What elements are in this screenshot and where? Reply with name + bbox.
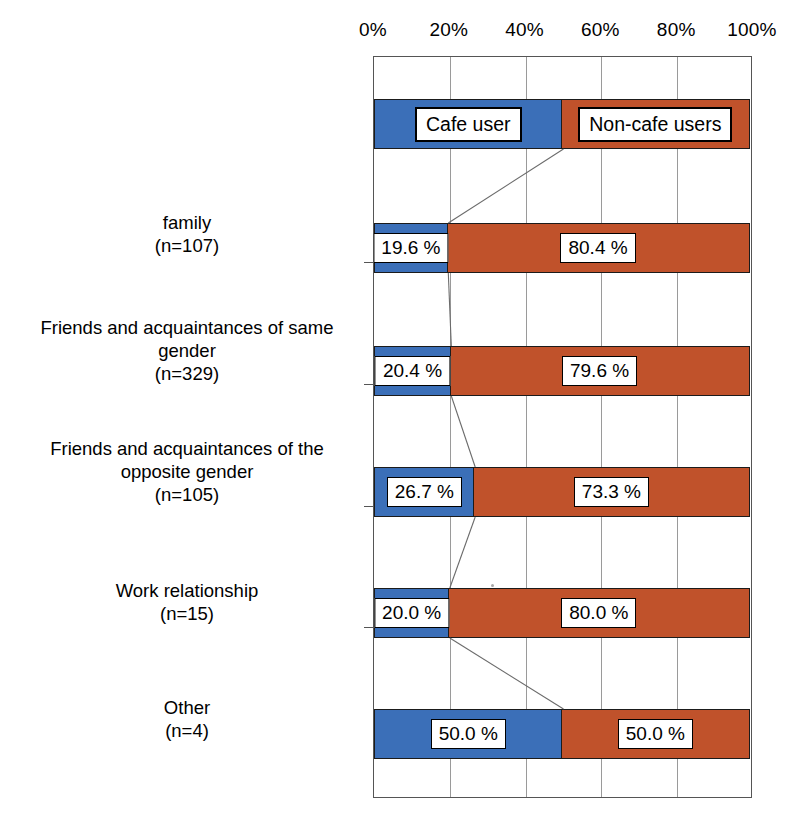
bar-segment-cafe-user-opposite-gender[interactable]: 26.7 %	[374, 467, 475, 517]
bar-row-opposite-gender: 26.7 % 73.3 %	[374, 467, 751, 517]
leader-lines	[374, 57, 753, 799]
x-axis-tick-0: 0%	[359, 18, 387, 42]
legend-label-cafe-user: Cafe user	[415, 107, 522, 142]
gridline-60	[601, 57, 602, 797]
bar-row-family: 19.6 % 80.4 %	[374, 223, 751, 273]
bar-segment-cafe-user-family[interactable]: 19.6 %	[374, 223, 448, 273]
x-axis-tick-60: 60%	[581, 18, 620, 42]
x-axis-tick-labels: 0% 20% 40% 60% 80% 100%	[373, 18, 752, 44]
value-label-non-cafe-users-opposite-gender: 73.3 %	[574, 477, 649, 507]
value-label-non-cafe-users-same-gender: 79.6 %	[562, 356, 637, 386]
bar-segment-cafe-user-work-relationship[interactable]: 20.0 %	[374, 588, 449, 638]
value-label-cafe-user-opposite-gender: 26.7 %	[387, 477, 462, 507]
gridline-80	[677, 57, 678, 797]
bar-row-work-relationship: 20.0 % 80.0 %	[374, 588, 751, 638]
y-axis-tick-3	[364, 506, 374, 507]
bar-segment-non-cafe-users-family[interactable]: 80.4 %	[447, 223, 750, 273]
y-axis-tick-2	[364, 384, 374, 385]
value-label-cafe-user-family: 19.6 %	[373, 233, 448, 263]
category-label-same-gender: Friends and acquaintances of same gender…	[7, 316, 367, 385]
stacked-bar-chart: 0% 20% 40% 60% 80% 100% family (n=107) F…	[0, 0, 791, 816]
bar-segment-non-cafe-users-other[interactable]: 50.0 %	[561, 709, 750, 759]
bar-segment-non-cafe-users-opposite-gender[interactable]: 73.3 %	[473, 467, 749, 517]
x-axis-tick-40: 40%	[505, 18, 544, 42]
gridline-40	[526, 57, 527, 797]
scan-speck	[491, 584, 494, 587]
plot-area: Cafe user Non-cafe users 19.6 % 80.4 % 2…	[373, 56, 752, 798]
legend-segment-non-cafe-users[interactable]: Non-cafe users	[561, 99, 750, 149]
legend-segment-cafe-user[interactable]: Cafe user	[374, 99, 563, 149]
bar-segment-non-cafe-users-work-relationship[interactable]: 80.0 %	[448, 588, 750, 638]
y-axis-category-labels: family (n=107) Friends and acquaintances…	[5, 56, 367, 798]
bar-row-other: 50.0 % 50.0 %	[374, 709, 751, 759]
category-label-family: family (n=107)	[7, 211, 367, 257]
bar-segment-cafe-user-other[interactable]: 50.0 %	[374, 709, 563, 759]
x-axis-tick-20: 20%	[429, 18, 468, 42]
y-axis-tick-4	[364, 627, 374, 628]
bar-row-same-gender: 20.4 % 79.6 %	[374, 346, 751, 396]
bar-segment-cafe-user-same-gender[interactable]: 20.4 %	[374, 346, 451, 396]
x-axis-tick-80: 80%	[657, 18, 696, 42]
value-label-cafe-user-same-gender: 20.4 %	[375, 356, 450, 386]
value-label-non-cafe-users-family: 80.4 %	[560, 233, 635, 263]
category-label-other: Other (n=4)	[7, 696, 367, 742]
value-label-cafe-user-other: 50.0 %	[431, 719, 506, 749]
bar-segment-non-cafe-users-same-gender[interactable]: 79.6 %	[450, 346, 750, 396]
value-label-non-cafe-users-work-relationship: 80.0 %	[561, 598, 636, 628]
x-axis-tick-100: 100%	[727, 18, 776, 42]
category-label-work-relationship: Work relationship (n=15)	[7, 579, 367, 625]
value-label-non-cafe-users-other: 50.0 %	[618, 719, 693, 749]
value-label-cafe-user-work-relationship: 20.0 %	[374, 598, 449, 628]
category-label-opposite-gender: Friends and acquaintances of the opposit…	[7, 437, 367, 506]
legend-bar-row: Cafe user Non-cafe users	[374, 99, 751, 149]
legend-label-non-cafe-users: Non-cafe users	[578, 107, 732, 142]
gridline-20	[450, 57, 451, 797]
